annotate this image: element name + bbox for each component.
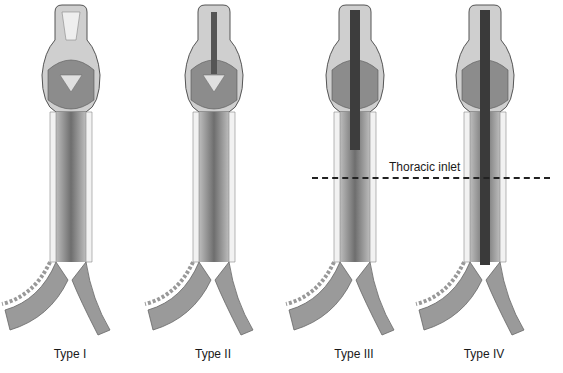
cleft-classification-figure: Type I Type II Type III <box>0 0 563 373</box>
airway-illustration-type-1 <box>0 0 140 345</box>
panel-type-2: Type II <box>143 0 283 373</box>
panel-type-1: Type I <box>0 0 140 373</box>
panel-type-3: Type III <box>284 0 424 373</box>
airway-illustration-type-2 <box>143 0 283 345</box>
type-1-label: Type I <box>0 347 140 361</box>
type-2-label: Type II <box>143 347 283 361</box>
type-4-label: Type IV <box>414 347 554 361</box>
thoracic-inlet-line <box>312 177 550 179</box>
thoracic-inlet-label: Thoracic inlet <box>389 160 460 174</box>
type-3-label: Type III <box>284 347 424 361</box>
panel-type-4: Type IV <box>414 0 554 373</box>
